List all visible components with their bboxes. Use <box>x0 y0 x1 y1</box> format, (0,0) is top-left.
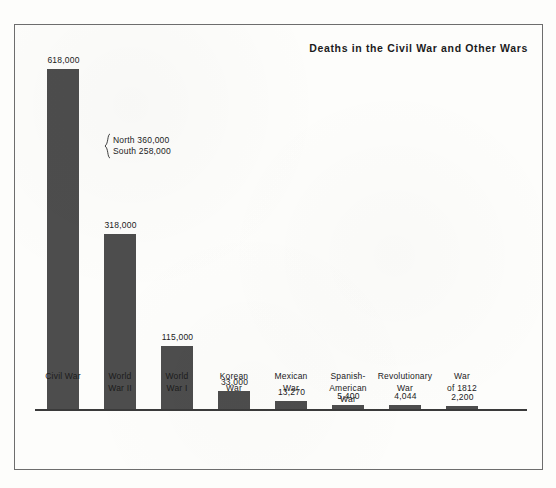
bar-group: 4,044 <box>377 69 434 409</box>
bar-group: 2,200 <box>434 69 491 409</box>
bar-group: 115,000 <box>149 69 206 409</box>
x-axis-line <box>35 409 527 411</box>
category-label: Warof 1812 <box>421 371 503 394</box>
category-label-line: of 1812 <box>421 383 503 395</box>
category-label-line: War <box>421 371 503 383</box>
plot-area: North 360,000 South 258,000 618,000Civil… <box>15 25 542 469</box>
bar[interactable] <box>47 69 79 409</box>
bar-group: 13,270 <box>263 69 320 409</box>
bar-group: 618,000 <box>35 69 92 409</box>
bar[interactable] <box>389 405 421 409</box>
bar-value-label: 115,000 <box>162 332 194 342</box>
bar-group: 33,000 <box>206 69 263 409</box>
chart-frame: Deaths in the Civil War and Other Wars N… <box>14 24 543 470</box>
bar-group: 5,400 <box>320 69 377 409</box>
bar[interactable] <box>446 406 478 409</box>
bar-value-label: 618,000 <box>47 55 79 65</box>
bar-value-label: 318,000 <box>104 220 136 230</box>
bar[interactable] <box>275 401 307 409</box>
bar[interactable] <box>332 405 364 409</box>
chart-page: Deaths in the Civil War and Other Wars N… <box>0 0 556 488</box>
bar-group: 318,000 <box>92 69 149 409</box>
